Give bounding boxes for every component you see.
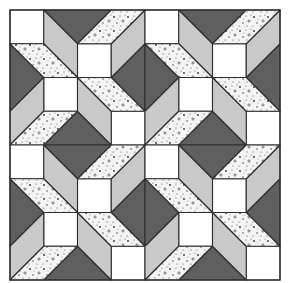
quilt-block bbox=[10, 145, 145, 280]
white-square bbox=[179, 78, 213, 112]
white-square bbox=[10, 145, 44, 179]
white-square bbox=[213, 179, 247, 213]
white-square bbox=[111, 246, 145, 280]
white-square bbox=[145, 10, 179, 44]
white-square bbox=[78, 44, 112, 78]
white-square bbox=[44, 213, 78, 247]
white-square bbox=[246, 111, 280, 145]
white-square bbox=[145, 145, 179, 179]
white-square bbox=[246, 246, 280, 280]
white-square bbox=[213, 44, 247, 78]
quilt-blocks bbox=[10, 10, 280, 280]
white-square bbox=[179, 213, 213, 247]
quilt-block bbox=[10, 10, 145, 145]
white-square bbox=[10, 10, 44, 44]
white-square bbox=[78, 179, 112, 213]
quilt-block bbox=[145, 145, 280, 280]
white-square bbox=[111, 111, 145, 145]
quilt-pattern bbox=[0, 0, 291, 283]
white-square bbox=[44, 78, 78, 112]
quilt-block bbox=[145, 10, 280, 145]
